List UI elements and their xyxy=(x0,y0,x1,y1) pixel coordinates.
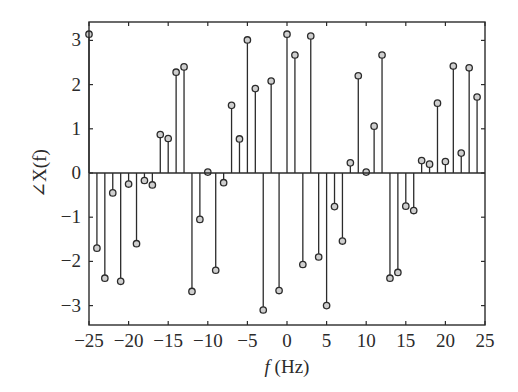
stem-marker xyxy=(189,288,195,294)
x-tick-label: −20 xyxy=(114,330,144,351)
stem-marker xyxy=(149,182,155,188)
stem-marker xyxy=(387,275,393,281)
stem-marker xyxy=(379,52,385,58)
x-tick-label: −25 xyxy=(74,330,104,351)
stem-marker xyxy=(205,169,211,175)
stem-marker xyxy=(220,180,226,186)
x-tick-label: 20 xyxy=(436,330,455,351)
stem-marker xyxy=(252,85,258,91)
stem-marker xyxy=(165,135,171,141)
x-axis-ticks: −25−20−15−10−50510152025 xyxy=(74,22,494,351)
stem-marker xyxy=(418,157,424,163)
stem-marker xyxy=(110,190,116,196)
stem-marker xyxy=(228,102,234,108)
y-tick-label: −3 xyxy=(61,295,81,316)
x-tick-label: 5 xyxy=(322,330,332,351)
stem-marker xyxy=(331,203,337,209)
stem-marker xyxy=(197,216,203,222)
stem-marker xyxy=(260,307,266,313)
stem-marker xyxy=(474,94,480,100)
stem-marker xyxy=(292,52,298,58)
x-axis-label-unit: (Hz) xyxy=(270,356,310,378)
x-tick-label: 0 xyxy=(282,330,292,351)
stem-plot: −25−20−15−10−50510152025 −3−2−10123 f (H… xyxy=(0,0,518,392)
stem-marker xyxy=(133,241,139,247)
stem-marker xyxy=(363,169,369,175)
stem-marker xyxy=(403,203,409,209)
stem-marker xyxy=(102,275,108,281)
x-tick-label: 25 xyxy=(476,330,495,351)
x-tick-label: 15 xyxy=(396,330,415,351)
stem-marker xyxy=(315,254,321,260)
stem-marker xyxy=(395,269,401,275)
x-tick-label: −15 xyxy=(153,330,183,351)
stem-marker xyxy=(355,73,361,79)
stem-marker xyxy=(141,177,147,183)
y-tick-label: 1 xyxy=(72,118,82,139)
stem-series xyxy=(86,31,480,313)
stem-marker xyxy=(173,69,179,75)
stem-marker xyxy=(181,64,187,70)
x-axis-label: f (Hz) xyxy=(265,356,310,378)
stem-marker xyxy=(426,161,432,167)
stem-marker xyxy=(94,245,100,251)
stem-marker xyxy=(300,261,306,267)
stem-marker xyxy=(347,160,353,166)
stem-marker xyxy=(434,100,440,106)
y-tick-label: 0 xyxy=(72,162,82,183)
stem-marker xyxy=(442,158,448,164)
y-axis-label: ∠X(f) xyxy=(29,149,51,198)
stem-marker xyxy=(276,287,282,293)
stem-marker xyxy=(268,78,274,84)
stem-marker xyxy=(339,238,345,244)
x-tick-label: −5 xyxy=(237,330,257,351)
y-tick-label: 3 xyxy=(72,29,82,50)
stem-marker xyxy=(466,65,472,71)
stem-marker xyxy=(284,31,290,37)
stem-marker xyxy=(411,207,417,213)
stem-marker xyxy=(371,123,377,129)
stem-marker xyxy=(157,131,163,137)
stem-marker xyxy=(244,37,250,43)
y-tick-label: 2 xyxy=(72,74,82,95)
y-tick-label: −2 xyxy=(61,250,81,271)
x-tick-label: −10 xyxy=(193,330,223,351)
stem-marker xyxy=(236,136,242,142)
stem-marker xyxy=(213,267,219,273)
stem-marker xyxy=(450,63,456,69)
stem-marker xyxy=(458,150,464,156)
y-tick-label: −1 xyxy=(61,206,81,227)
x-tick-label: 10 xyxy=(357,330,376,351)
stem-marker xyxy=(117,278,123,284)
stem-marker xyxy=(125,181,131,187)
stem-marker xyxy=(323,302,329,308)
stem-marker xyxy=(308,33,314,39)
